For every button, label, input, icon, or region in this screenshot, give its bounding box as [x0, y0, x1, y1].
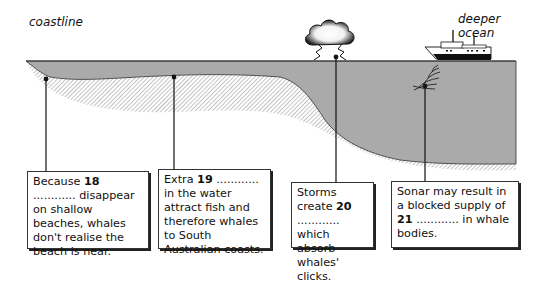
box-18-after: ............ disappear on shallow beache…	[33, 189, 135, 258]
answer-box-21: Sonar may result in a blocked supply of …	[391, 181, 519, 248]
box-19-before: Extra	[164, 173, 197, 186]
box-20-before: Storms create	[297, 186, 336, 213]
question-number-19: 19	[197, 173, 213, 186]
answer-box-18: Because 18 ............ disappear on sha…	[27, 171, 149, 249]
storm-cloud-lightning-icon	[305, 20, 354, 60]
answer-box-19: Extra 19 ............ in the water attra…	[158, 169, 271, 249]
box-20-after: ............ which absorb whales' clicks…	[297, 214, 340, 283]
question-number-20: 20	[336, 200, 352, 213]
question-number-21: 21	[397, 213, 413, 226]
ship-icon	[425, 30, 491, 60]
question-number-18: 18	[84, 175, 100, 188]
box-18-before: Because	[33, 175, 84, 188]
box-21-before: Sonar may result in a blocked supply of	[397, 185, 506, 212]
answer-box-20: Storms create 20 ............ which abso…	[291, 182, 374, 248]
box-21-after: ............ in whale bodies.	[397, 213, 509, 240]
